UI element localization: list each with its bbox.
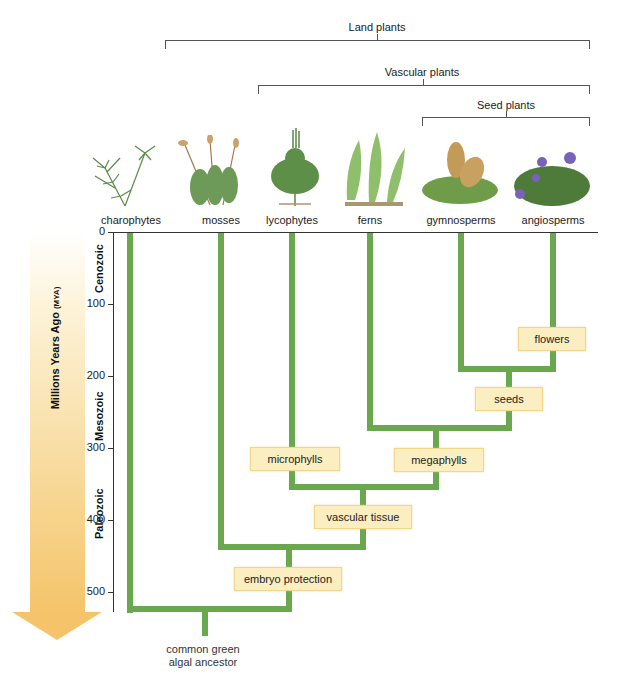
branch-gymnosperms <box>458 233 464 371</box>
fern-illustration-icon <box>337 130 409 210</box>
moss-illustration-icon <box>165 135 250 210</box>
axis-tick-label: 200 <box>65 369 105 381</box>
branch-ferns <box>367 233 373 429</box>
angiosperm-illustration-icon <box>508 148 594 210</box>
time-arrow-head-icon <box>12 612 102 640</box>
taxon-label-ferns: ferns <box>358 214 382 226</box>
clade-label-land-plants: Land plants <box>349 21 406 33</box>
taxon-label-charophytes: charophytes <box>101 214 161 226</box>
stem-root <box>202 606 208 636</box>
lycophyte-illustration-icon <box>265 128 325 210</box>
branch-mosses <box>218 233 224 548</box>
node-land-plants <box>218 544 366 550</box>
axis-tick <box>108 304 113 305</box>
trait-seeds: seeds <box>475 387 543 411</box>
taxon-label-gymnosperms: gymnosperms <box>426 214 495 226</box>
clade-label-seed-plants: Seed plants <box>477 99 535 111</box>
era-label-cenozoic: Cenozoic <box>93 243 105 293</box>
trait-flowers: flowers <box>518 327 586 351</box>
trait-vascular-tissue: vascular tissue <box>314 505 412 529</box>
axis-tick <box>108 592 113 593</box>
branch-charophytes <box>127 233 133 613</box>
taxon-label-lycophytes: lycophytes <box>266 214 318 226</box>
time-axis <box>113 232 114 612</box>
clade-bracket-seed-plants <box>422 117 590 118</box>
axis-tick-label: 0 <box>65 225 105 237</box>
clade-bracket-land-plants <box>165 40 590 41</box>
trait-microphylls: microphylls <box>250 447 340 471</box>
node-root <box>127 606 292 612</box>
gymnosperm-illustration-icon <box>420 138 502 210</box>
present-day-baseline <box>113 232 598 233</box>
clade-label-vascular-plants: Vascular plants <box>385 66 459 78</box>
trait-embryo-protection: embryo protection <box>234 567 342 591</box>
axis-title: Millions Years Ago (MYA) <box>49 273 61 423</box>
axis-tick <box>108 376 113 377</box>
clade-bracket-vascular-plants <box>258 85 590 86</box>
charophyte-illustration-icon <box>85 138 160 208</box>
axis-tick <box>108 232 113 233</box>
root-ancestor-label: common green algal ancestor <box>166 643 239 669</box>
axis-tick-label: 100 <box>65 297 105 309</box>
node-euphyllophytes <box>367 425 512 431</box>
era-label-paleozoic: Paleozoic <box>93 483 105 539</box>
trait-megaphylls: megaphylls <box>394 448 484 472</box>
axis-tick-label: 300 <box>65 441 105 453</box>
era-label-mesozoic: Mesozoic <box>93 391 105 441</box>
taxon-label-angiosperms: angiosperms <box>522 214 585 226</box>
taxon-label-mosses: mosses <box>202 214 240 226</box>
axis-tick-label: 500 <box>65 585 105 597</box>
axis-tick <box>108 448 113 449</box>
axis-tick <box>108 520 113 521</box>
